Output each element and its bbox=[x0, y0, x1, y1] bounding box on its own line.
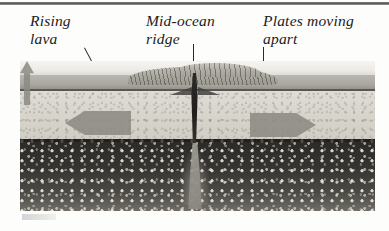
lower-crust-layer bbox=[20, 91, 375, 143]
cross-section-illustration bbox=[20, 61, 375, 211]
label-plates-moving-apart: Plates moving apart bbox=[263, 12, 354, 48]
label-mid-ocean-ridge: Mid-ocean ridge bbox=[146, 12, 215, 48]
label-rising-lava: Rising lava bbox=[30, 12, 71, 48]
mid-ocean-ridge-figure: Rising lava Mid-ocean ridge Plates movin… bbox=[0, 0, 389, 231]
page-top-rule bbox=[0, 2, 389, 5]
mantle-boundary-line bbox=[20, 139, 375, 142]
scan-artifact bbox=[22, 214, 56, 220]
